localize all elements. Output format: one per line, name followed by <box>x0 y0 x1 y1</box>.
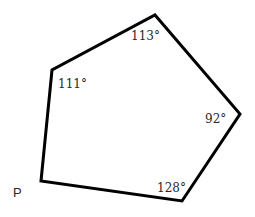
vertex-label-p: P <box>13 185 22 200</box>
angle-label-right: 92° <box>205 112 226 126</box>
angle-label-top: 113° <box>131 29 160 43</box>
pentagon-diagram: 113° 111° 92° 128° P <box>0 0 255 217</box>
angle-label-left-upper: 111° <box>58 77 87 91</box>
angle-label-bottom-right: 128° <box>157 181 186 195</box>
